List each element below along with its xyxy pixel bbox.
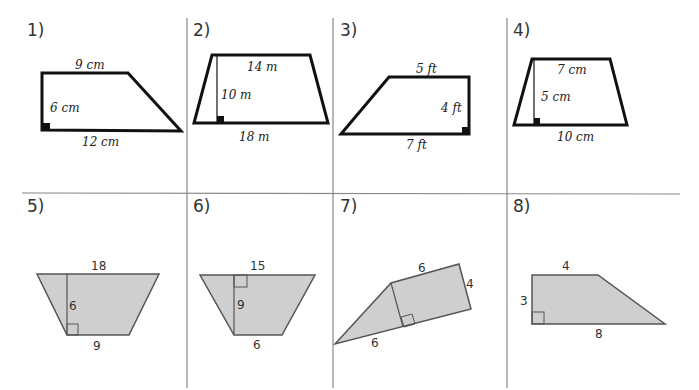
trapezoid-figure-2: 14 m 10 m 18 m [194, 55, 328, 144]
label-height: 10 m [221, 88, 251, 102]
figures: 9 cm 6 cm 12 cm 14 m 10 m 18 m 5 ft 4 ft… [0, 0, 699, 390]
trapezoid-figure-1: 9 cm 6 cm 12 cm [42, 58, 181, 149]
label-bottom-base: 12 cm [82, 135, 119, 149]
label-height: 4 ft [440, 101, 462, 115]
label-height: 5 cm [541, 90, 571, 104]
label-height: 4 [466, 277, 474, 291]
trapezoid-figure-6: 15 9 6 [200, 259, 315, 352]
label-top-base: 9 cm [75, 58, 105, 72]
label-bottom-base: 8 [595, 327, 603, 341]
label-bottom-base: 6 [371, 336, 379, 350]
trapezoid-figure-3: 5 ft 4 ft 7 ft [341, 62, 469, 152]
trapezoid-figure-7: 6 4 6 [335, 261, 474, 350]
right-angle-marker [217, 116, 224, 123]
trapezoid-figure-4: 7 cm 5 cm 10 cm [514, 59, 627, 144]
trapezoid-figure-5: 18 6 9 [37, 259, 159, 353]
label-top-base: 15 [250, 259, 265, 273]
trapezoid-area-worksheet: 1) 2) 3) 4) 5) 6) 7) 8) 9 cm 6 cm 12 cm … [0, 0, 699, 390]
label-top-base: 7 cm [557, 63, 587, 77]
label-top-base: 14 m [247, 60, 277, 74]
right-angle-marker [534, 118, 540, 125]
label-height: 3 [520, 294, 528, 308]
label-top-base: 18 [91, 259, 106, 273]
label-top-base: 6 [418, 261, 426, 275]
label-bottom-base: 18 m [239, 130, 269, 144]
label-height: 9 [237, 298, 245, 312]
label-top-base: 5 ft [416, 62, 437, 76]
label-top-base: 4 [562, 259, 570, 273]
label-bottom-base: 7 ft [406, 138, 427, 152]
label-bottom-base: 10 cm [557, 130, 594, 144]
right-angle-marker [462, 127, 469, 134]
label-bottom-base: 6 [253, 338, 261, 352]
label-height: 6 [69, 299, 77, 313]
label-height: 6 cm [50, 101, 80, 115]
right-angle-marker [42, 123, 50, 130]
trapezoid-figure-8: 4 3 8 [520, 259, 665, 341]
label-bottom-base: 9 [93, 339, 101, 353]
